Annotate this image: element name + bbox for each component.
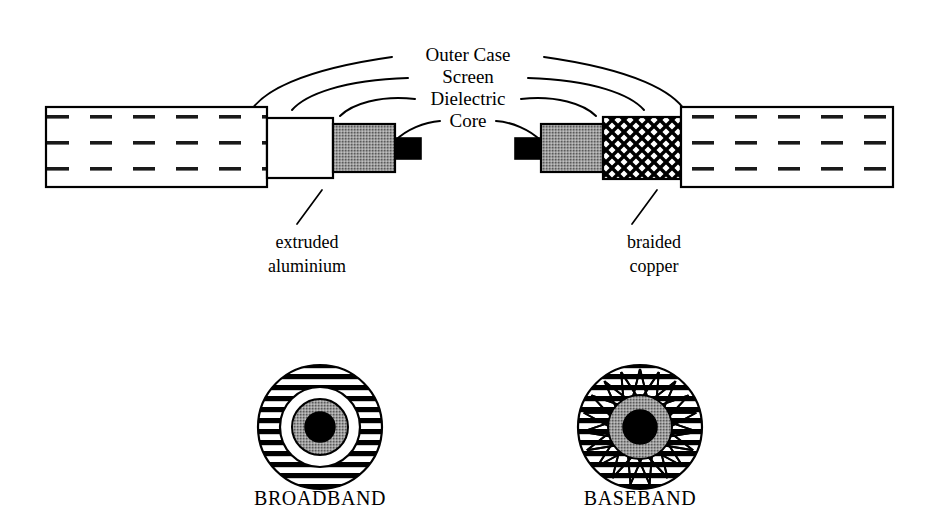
left-screen-layer — [267, 118, 333, 178]
left-core — [395, 138, 421, 159]
cable-left-half — [46, 107, 421, 187]
caption-baseband: BASEBAND — [584, 487, 697, 509]
right-screen-layer-braided — [603, 117, 681, 179]
annotation-extruded-line1: extruded — [276, 232, 339, 252]
annotation-braided-line2: copper — [630, 256, 679, 276]
callout-label-dielectric: Dielectric — [431, 88, 506, 109]
leader-screen-left — [292, 78, 408, 110]
broadband-core — [305, 412, 335, 442]
callout-label-screen: Screen — [442, 66, 494, 87]
leader-dielectric-left — [340, 98, 415, 116]
cable-right-half — [515, 107, 893, 187]
leader-outer-case-left — [250, 57, 392, 112]
annotation-extruded-line2: aluminium — [268, 256, 346, 276]
leader-core-left — [396, 121, 440, 140]
diagram-canvas: Outer Case Screen Dielectric Core — [0, 0, 933, 525]
right-dielectric-layer — [541, 124, 603, 172]
coax-cable-diagram: Outer Case Screen Dielectric Core — [0, 0, 933, 525]
annotation-braided-line1: braided — [627, 232, 681, 252]
annotation-left-group: extruded aluminium — [268, 190, 346, 276]
leader-braided-copper — [632, 190, 657, 224]
callout-labels: Outer Case Screen Dielectric Core — [426, 44, 511, 131]
leader-core-right — [496, 121, 540, 140]
callout-label-outer-case: Outer Case — [426, 44, 511, 65]
baseband-core — [623, 410, 657, 444]
leader-dielectric-right — [521, 98, 596, 116]
left-dielectric-layer — [333, 124, 395, 172]
right-core — [515, 138, 541, 159]
cross-section-broadband: BROADBAND — [254, 365, 386, 509]
leader-screen-right — [528, 78, 644, 110]
leader-outer-case-right — [544, 57, 686, 112]
right-outer-case — [681, 107, 893, 187]
callout-label-core: Core — [450, 110, 487, 131]
caption-broadband: BROADBAND — [254, 487, 386, 509]
annotation-right-group: braided copper — [627, 190, 681, 276]
left-outer-case — [46, 107, 267, 187]
leader-extruded-aluminium — [297, 190, 322, 224]
cross-section-baseband: BASEBAND — [578, 365, 702, 509]
